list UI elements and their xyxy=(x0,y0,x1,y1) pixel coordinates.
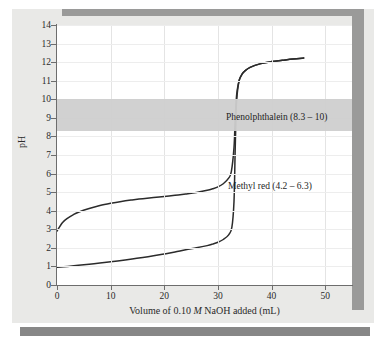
y-tick xyxy=(51,25,57,26)
titration-curve xyxy=(57,58,304,267)
y-tick xyxy=(51,229,57,230)
titration-curve xyxy=(57,58,304,231)
x-tick xyxy=(111,285,112,290)
gridline-horizontal xyxy=(57,25,352,26)
y-tick-label: 1 xyxy=(25,261,51,271)
gridline-horizontal xyxy=(57,174,352,175)
x-axis-line xyxy=(56,285,353,286)
figure-container: 01234567891011121314 01020304050 pH Volu… xyxy=(0,0,387,353)
x-tick xyxy=(57,285,58,290)
x-tick-label: 40 xyxy=(257,291,287,301)
bottom-rule xyxy=(20,327,370,336)
gridline-horizontal xyxy=(57,266,352,267)
gridline-horizontal xyxy=(57,62,352,63)
gridline-horizontal xyxy=(57,136,352,137)
x-axis-title-molarity: M xyxy=(193,305,201,316)
x-tick xyxy=(218,285,219,290)
y-tick xyxy=(51,266,57,267)
y-tick-label: 11 xyxy=(25,76,51,86)
y-tick xyxy=(51,174,57,175)
y-tick-label: 10 xyxy=(25,94,51,104)
y-tick xyxy=(51,81,57,82)
y-tick-label: 9 xyxy=(25,113,51,123)
x-tick xyxy=(272,285,273,290)
y-tick xyxy=(51,211,57,212)
plot-area xyxy=(57,25,352,285)
y-tick-label: 3 xyxy=(25,224,51,234)
y-tick xyxy=(51,99,57,100)
x-tick xyxy=(325,285,326,290)
y-tick xyxy=(51,118,57,119)
plot-right-shadow xyxy=(352,14,364,310)
y-tick-label: 2 xyxy=(25,243,51,253)
gridline-horizontal xyxy=(57,229,352,230)
gridline-horizontal xyxy=(57,192,352,193)
phenolphthalein-label: Phenolphthalein (8.3 – 10) xyxy=(226,112,327,122)
x-tick-label: 0 xyxy=(42,291,72,301)
x-tick-label: 30 xyxy=(203,291,233,301)
y-tick xyxy=(51,44,57,45)
plot-top-shadow xyxy=(62,9,364,16)
y-tick-label: 14 xyxy=(25,20,51,30)
y-axis-title: pH xyxy=(16,136,27,148)
x-tick-label: 20 xyxy=(149,291,179,301)
x-axis-title-pre: Volume of 0.10 xyxy=(129,305,193,316)
gridline-horizontal xyxy=(57,211,352,212)
gridline-horizontal xyxy=(57,44,352,45)
y-tick xyxy=(51,136,57,137)
y-tick-label: 5 xyxy=(25,187,51,197)
y-tick xyxy=(51,248,57,249)
gridline-horizontal xyxy=(57,155,352,156)
x-tick xyxy=(164,285,165,290)
x-tick-label: 10 xyxy=(96,291,126,301)
y-tick-label: 6 xyxy=(25,169,51,179)
y-tick xyxy=(51,62,57,63)
x-axis-title-post: NaOH added (mL) xyxy=(202,305,280,316)
y-tick xyxy=(51,192,57,193)
gridline-horizontal xyxy=(57,248,352,249)
y-tick-label: 4 xyxy=(25,206,51,216)
gridline-horizontal xyxy=(57,81,352,82)
x-tick-label: 50 xyxy=(310,291,340,301)
methyl-red-label: Methyl red (4.2 – 6.3) xyxy=(228,181,312,191)
y-tick xyxy=(51,155,57,156)
y-tick-label: 12 xyxy=(25,57,51,67)
y-tick-label: 8 xyxy=(25,131,51,141)
y-tick-label: 0 xyxy=(25,280,51,290)
x-axis-title: Volume of 0.10 M NaOH added (mL) xyxy=(57,305,352,316)
y-tick-label: 13 xyxy=(25,39,51,49)
y-tick-label: 7 xyxy=(25,150,51,160)
